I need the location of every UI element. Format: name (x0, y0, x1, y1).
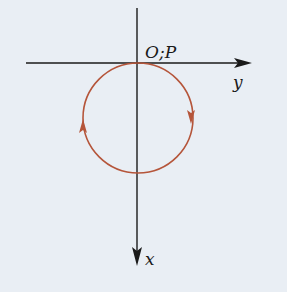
direction-arrow-down-icon (187, 110, 195, 124)
direction-arrow-up-icon (79, 119, 87, 133)
origin-label: O;P (145, 42, 177, 62)
y-axis-label: y (232, 72, 243, 92)
x-axis (132, 8, 142, 266)
x-axis-label: x (145, 249, 155, 269)
diagram: O;P y x (0, 0, 287, 292)
